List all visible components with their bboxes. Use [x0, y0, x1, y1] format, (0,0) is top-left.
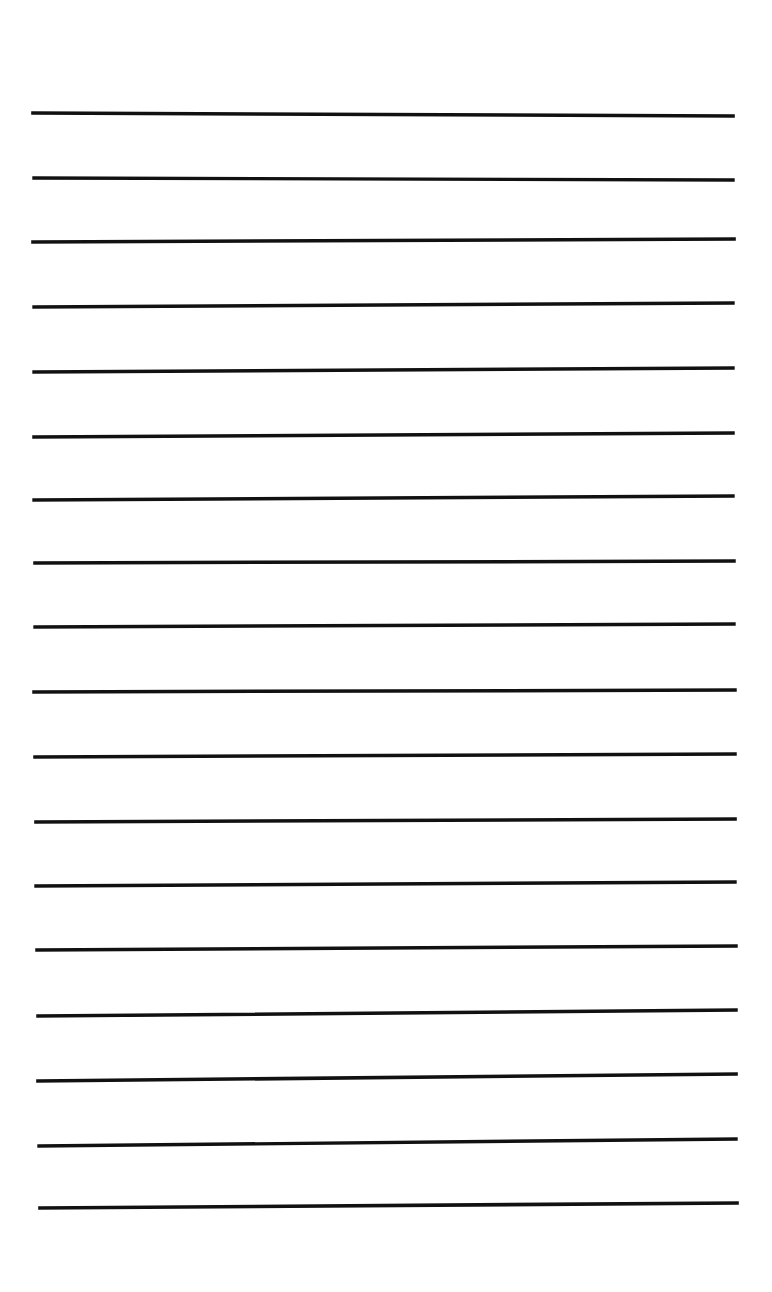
paper-background — [0, 0, 772, 1292]
ruled-lines-canvas — [0, 0, 772, 1292]
rule-line-8 — [35, 561, 734, 563]
rule-line-10 — [34, 690, 735, 692]
lined-paper-page — [0, 0, 772, 1292]
rule-line-2 — [34, 178, 733, 180]
